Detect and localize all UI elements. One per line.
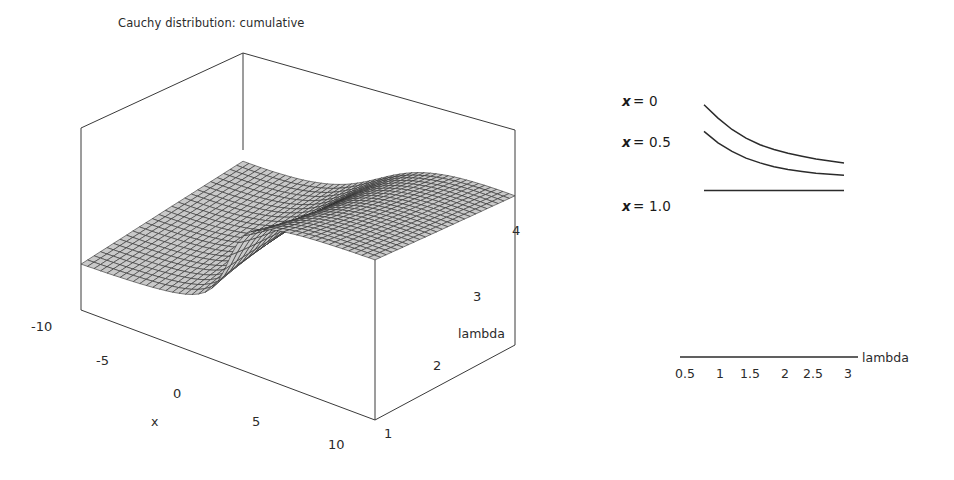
curve-label-x0-var: x (622, 93, 633, 109)
curve-0 (704, 105, 844, 163)
surface-plot-graphic (0, 0, 560, 480)
surface-xtick-0: -10 (31, 319, 52, 334)
surface-mesh (81, 161, 515, 294)
curve-label-x10-value: = 1.0 (633, 198, 671, 214)
curves-plot-graphic (560, 0, 954, 480)
surface-xtick-4: 10 (328, 437, 345, 452)
figure-canvas: Cauchy distribution: cumulative (0, 0, 954, 480)
curves-xaxis-label: lambda (862, 350, 909, 365)
surface-lambdatick-0: 1 (384, 426, 392, 441)
curves-xtick-5: 3 (835, 366, 861, 381)
curve-1 (704, 131, 844, 175)
curve-label-x0: x= 0 (622, 93, 658, 109)
surface-xtick-2: 0 (173, 386, 181, 401)
surface-lambdatick-2: 3 (473, 289, 481, 304)
surface-lambdatick-3: 4 (512, 223, 520, 238)
surface-plot-panel: Cauchy distribution: cumulative (0, 0, 560, 480)
curve-label-x0-value: = 0 (633, 93, 658, 109)
curves-xtick-0: 0.5 (672, 366, 698, 381)
surface-lambdatick-1: 2 (433, 358, 441, 373)
surface-xtick-3: 5 (252, 414, 260, 429)
surface-xaxis-label: x (151, 414, 158, 429)
curves-plot-panel: x= 0 x= 0.5 x= 1.0 lambda 0.5 1 1.5 2 2.… (560, 0, 954, 480)
surface-xtick-1: -5 (96, 353, 109, 368)
curves-xtick-3: 2 (772, 366, 798, 381)
curve-label-x05-value: = 0.5 (633, 134, 671, 150)
curve-label-x05: x= 0.5 (622, 134, 671, 150)
curve-label-x05-var: x (622, 134, 633, 150)
curves-xtick-1: 1 (707, 366, 733, 381)
surface-lambda-axis-label: lambda (458, 326, 505, 341)
curve-series-group (704, 105, 844, 191)
curve-label-x10: x= 1.0 (622, 198, 671, 214)
curves-xtick-4: 2.5 (800, 366, 826, 381)
curve-label-x10-var: x (622, 198, 633, 214)
curves-xtick-2: 1.5 (737, 366, 763, 381)
